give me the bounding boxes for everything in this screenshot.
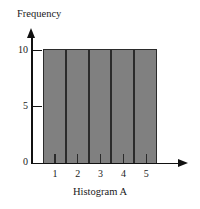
x-tick-label-1: 1: [47, 168, 63, 179]
x-tick-mark-4: [123, 154, 124, 163]
x-tick-mark-5: [146, 154, 147, 163]
histogram-chart: Frequency 10 5 0 1 2 3 4 5 Histogram A: [0, 0, 200, 209]
x-axis-title: Histogram A: [0, 186, 200, 198]
y-axis-line: [31, 37, 33, 164]
x-tick-mark-3: [100, 154, 101, 163]
table-row: [43, 50, 66, 164]
y-tick-label-10: 10: [6, 45, 28, 55]
bar-top-edge: [43, 49, 157, 50]
x-tick-label-5: 5: [138, 168, 154, 179]
table-row: [89, 50, 112, 164]
x-tick-mark-1: [54, 154, 55, 163]
x-tick-label-3: 3: [93, 168, 109, 179]
table-row: [111, 50, 134, 164]
y-tick-label-5: 5: [6, 101, 28, 111]
x-tick-label-2: 2: [70, 168, 86, 179]
y-axis-arrow-icon: [27, 28, 35, 38]
y-tick-mark-10: [33, 50, 42, 51]
y-tick-mark-5: [33, 106, 42, 107]
x-axis-arrow-icon: [178, 159, 188, 167]
x-tick-label-4: 4: [115, 168, 131, 179]
y-tick-label-0: 0: [6, 157, 28, 167]
y-axis-title: Frequency: [17, 8, 61, 20]
table-row: [66, 50, 89, 164]
x-tick-mark-2: [77, 154, 78, 163]
plot-area: [43, 50, 157, 164]
table-row: [134, 50, 157, 164]
